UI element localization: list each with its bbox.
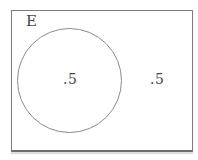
sample-space-rectangle: E .5 .5	[11, 10, 193, 152]
outside-probability-label: .5	[150, 72, 164, 86]
inside-probability-label: .5	[63, 72, 77, 86]
event-label: E	[26, 14, 37, 29]
venn-diagram-canvas: E .5 .5	[0, 0, 198, 160]
